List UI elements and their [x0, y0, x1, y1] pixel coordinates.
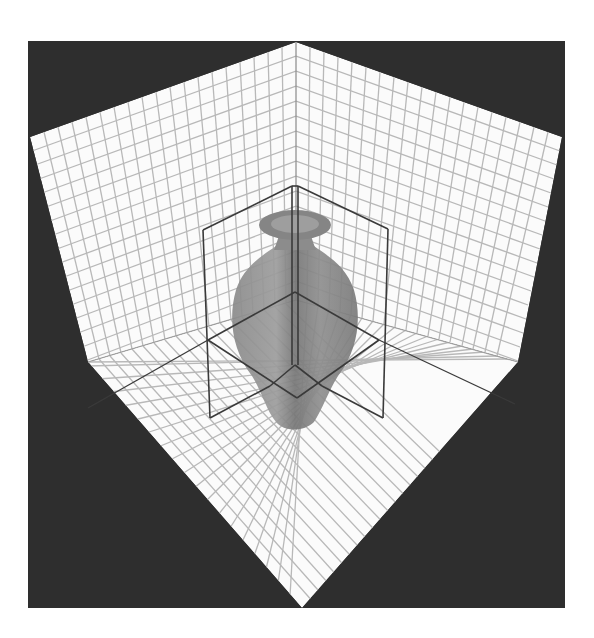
scene-render [0, 0, 594, 638]
figure-canvas [0, 0, 594, 638]
